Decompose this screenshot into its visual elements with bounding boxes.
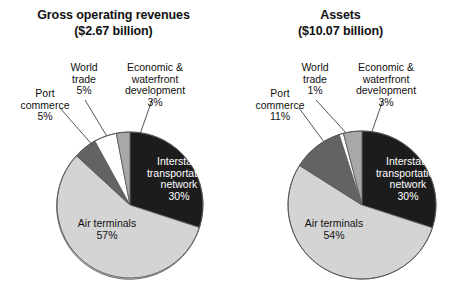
pie-chart-right	[227, 0, 454, 298]
slice-label-interstate: Interstate transportation network 30%	[138, 156, 220, 202]
slice-label-air-terminals: Air terminals 57%	[58, 218, 156, 241]
pie-chart-figure: Gross operating revenues ($2.67 billion)…	[0, 0, 454, 298]
chart-panel-gross-operating-revenues: Gross operating revenues ($2.67 billion)…	[0, 0, 227, 298]
callout-economic-waterfront: Economic & waterfront development 3%	[343, 62, 429, 108]
pie-chart-left	[0, 0, 227, 298]
slice-label-interstate: Interstate transportation network 30%	[367, 156, 449, 202]
callout-world-trade: World trade 1%	[289, 62, 341, 97]
chart-panel-assets: Assets ($10.07 billion) Port commerce 11…	[227, 0, 454, 298]
callout-world-trade: World trade 5%	[58, 62, 110, 97]
slice-label-air-terminals: Air terminals 54%	[285, 218, 383, 241]
callout-economic-waterfront: Economic & waterfront development 3%	[112, 62, 198, 108]
